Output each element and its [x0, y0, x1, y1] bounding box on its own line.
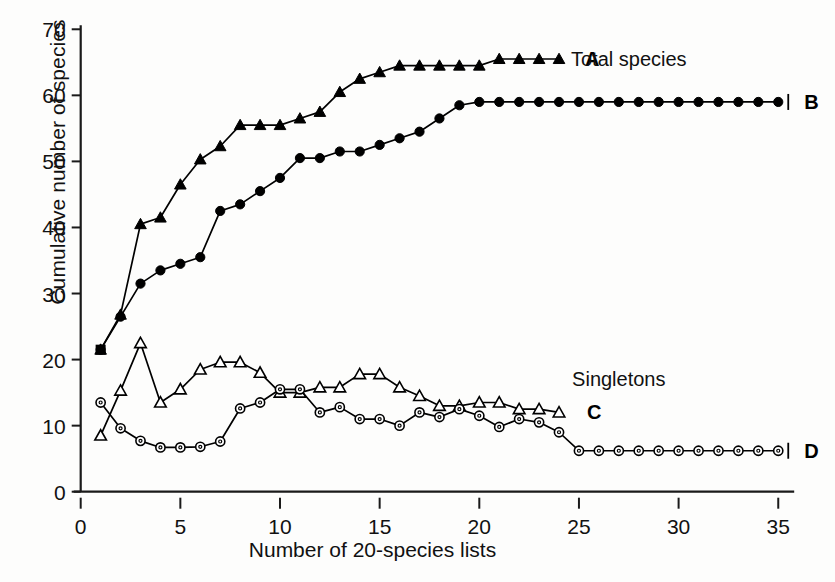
data-point-marker: [394, 382, 406, 392]
figure-container: Cumulative number of species 01020304050…: [0, 0, 835, 582]
data-point-marker: [95, 430, 107, 440]
data-point-marker: [634, 446, 643, 455]
data-point-marker: [415, 127, 424, 136]
data-point-marker: [355, 414, 364, 423]
x-tick-label: 25: [567, 515, 590, 538]
x-tick-label: 20: [468, 515, 491, 538]
series-label-c: C: [587, 401, 601, 423]
data-point-marker: [135, 337, 147, 347]
origin-overlap-marker-group: [96, 345, 106, 355]
y-tick-label: 60: [42, 84, 65, 107]
data-point-marker: [574, 97, 583, 106]
y-tick-label: 70: [42, 18, 65, 41]
data-point-marker: [236, 200, 245, 209]
data-point-marker: [694, 97, 703, 106]
annotation-total-species: Total species: [571, 48, 687, 70]
data-point-marker: [714, 97, 723, 106]
data-point-marker: [136, 436, 145, 445]
data-point-marker: [654, 446, 663, 455]
x-tick-label: 35: [767, 515, 790, 538]
axes-group: 01020304050607005101520253035: [42, 18, 794, 537]
data-point-marker: [176, 259, 185, 268]
data-point-marker: [395, 134, 404, 143]
x-axis-title-wrap: Number of 20-species lists: [0, 538, 835, 562]
data-point-marker: [674, 97, 683, 106]
data-point-marker: [315, 153, 324, 162]
data-point-marker: [255, 398, 264, 407]
data-point-marker: [116, 312, 125, 321]
data-point-marker: [614, 446, 623, 455]
y-tick-label: 30: [42, 283, 65, 306]
data-point-marker: [115, 385, 127, 395]
data-point-marker: [435, 114, 444, 123]
data-point-marker: [435, 412, 444, 421]
data-point-marker: [734, 97, 743, 106]
data-point-marker: [475, 97, 484, 106]
data-point-marker: [194, 154, 206, 164]
data-point-marker: [335, 147, 344, 156]
data-point-marker: [515, 97, 524, 106]
data-point-marker: [754, 97, 763, 106]
data-point-marker: [554, 428, 563, 437]
data-point-marker: [216, 437, 225, 446]
overlap-square-marker: [96, 345, 106, 355]
data-point-marker: [554, 97, 563, 106]
data-point-marker: [335, 403, 344, 412]
data-point-marker: [455, 101, 464, 110]
data-point-marker: [614, 97, 623, 106]
x-tick-label: 10: [268, 515, 291, 538]
data-point-marker: [375, 140, 384, 149]
data-point-marker: [156, 443, 165, 452]
data-point-marker: [515, 414, 524, 423]
series-D: [96, 385, 783, 456]
x-axis-title: Number of 20-species lists: [249, 538, 496, 561]
data-point-marker: [315, 408, 324, 417]
y-tick-label: 0: [54, 481, 66, 504]
data-point-marker: [355, 147, 364, 156]
data-point-marker: [694, 446, 703, 455]
data-point-marker: [574, 446, 583, 455]
series-B: [96, 97, 783, 354]
data-point-marker: [255, 187, 264, 196]
data-point-marker: [136, 279, 145, 288]
data-point-marker: [534, 97, 543, 106]
data-point-marker: [275, 385, 284, 394]
data-point-marker: [495, 97, 504, 106]
data-point-marker: [96, 398, 105, 407]
data-point-marker: [714, 446, 723, 455]
data-point-marker: [754, 446, 763, 455]
x-tick-label: 5: [175, 515, 187, 538]
data-point-marker: [674, 446, 683, 455]
data-point-marker: [414, 390, 426, 400]
data-point-marker: [395, 421, 404, 430]
data-point-marker: [295, 385, 304, 394]
y-tick-label: 50: [42, 150, 65, 173]
y-tick-label: 10: [42, 415, 65, 438]
data-point-marker: [455, 405, 464, 414]
x-tick-label: 30: [667, 515, 690, 538]
y-tick-label: 40: [42, 216, 65, 239]
data-point-marker: [155, 397, 167, 407]
data-point-marker: [216, 206, 225, 215]
data-point-marker: [196, 442, 205, 451]
data-point-marker: [415, 408, 424, 417]
data-point-marker: [196, 253, 205, 262]
data-point-marker: [594, 446, 603, 455]
data-point-marker: [734, 446, 743, 455]
series-label-b: B: [804, 91, 818, 113]
x-tick-label: 0: [75, 515, 87, 538]
data-point-marker: [634, 97, 643, 106]
series-A: [95, 53, 565, 354]
data-point-marker: [275, 173, 284, 182]
data-point-marker: [534, 418, 543, 427]
series-label-d: D: [804, 440, 818, 462]
data-point-marker: [155, 212, 167, 222]
x-tick-label: 15: [368, 515, 391, 538]
data-point-marker: [594, 97, 603, 106]
data-point-marker: [375, 414, 384, 423]
data-point-marker: [236, 404, 245, 413]
data-point-marker: [774, 97, 783, 106]
data-point-marker: [654, 97, 663, 106]
y-tick-label: 20: [42, 349, 65, 372]
annotations: Total speciesSingletons: [571, 48, 687, 390]
